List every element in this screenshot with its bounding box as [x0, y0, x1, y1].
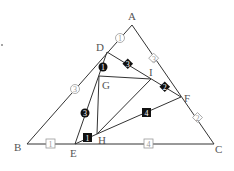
svg-text:4: 4 [145, 109, 149, 118]
label-i: I [149, 66, 153, 78]
marker-if: 2 [159, 81, 170, 92]
segment-gh [97, 76, 99, 134]
label-h: H [98, 134, 106, 146]
segment-hf [97, 97, 181, 134]
svg-text:2: 2 [163, 83, 167, 92]
stray-dot [1, 44, 3, 46]
marker-db: 3 [71, 85, 80, 95]
label-f: F [184, 92, 190, 104]
svg-text:3: 3 [126, 60, 130, 69]
svg-text:1: 1 [49, 140, 53, 149]
label-e: E [70, 147, 77, 159]
svg-text:1: 1 [101, 63, 105, 72]
marker-hf: 4 [142, 108, 151, 118]
marker-dg: 1 [99, 63, 108, 73]
svg-text:3: 3 [73, 85, 77, 94]
marker-di: 3 [122, 58, 133, 69]
svg-text:3: 3 [152, 55, 156, 64]
marker-ge: 3 [81, 109, 90, 119]
marker-be: 1 [46, 139, 55, 149]
marker-fc: 2 [193, 113, 203, 123]
svg-text:1: 1 [118, 34, 122, 43]
marker-eh: 1 [83, 133, 92, 143]
label-g: G [102, 79, 110, 91]
marker-ad: 1 [116, 34, 125, 44]
segment-df [107, 52, 181, 97]
label-b: B [14, 141, 21, 153]
svg-text:2: 2 [196, 114, 200, 123]
label-c: C [215, 143, 222, 155]
svg-text:4: 4 [147, 140, 151, 149]
svg-text:3: 3 [83, 109, 87, 118]
label-d: D [96, 41, 104, 53]
label-a: A [128, 10, 136, 22]
svg-text:1: 1 [86, 134, 90, 143]
triangle-diagram: A B C D E F G H I 1 3 3 2 1 4 1 3 [0, 0, 234, 171]
marker-ec: 4 [144, 139, 153, 149]
